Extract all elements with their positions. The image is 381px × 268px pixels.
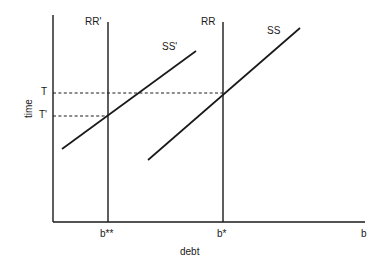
diagram-svg xyxy=(0,0,381,268)
curve-label-rr: RR xyxy=(201,17,215,27)
y-tick-label-T: T xyxy=(41,87,47,97)
diagram-canvas: time debt b T T' b** b* RR' RR SS' SS xyxy=(0,0,381,268)
curve-label-rr-prime: RR' xyxy=(85,17,101,27)
curve-label-ss: SS xyxy=(267,26,280,36)
curve-label-ss-prime: SS' xyxy=(162,42,177,52)
x-axis-variable-label: b xyxy=(361,229,367,239)
y-axis-title: time xyxy=(24,99,34,118)
y-tick-label-T-prime: T' xyxy=(39,110,47,120)
x-tick-label-b-star: b* xyxy=(217,229,226,239)
ss-prime-line xyxy=(62,51,196,149)
x-axis-title: debt xyxy=(180,247,199,257)
x-tick-label-b-double-star: b** xyxy=(100,229,113,239)
